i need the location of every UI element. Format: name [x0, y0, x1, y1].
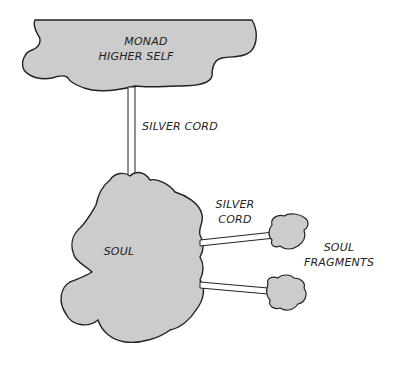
soul-fragment-lower [267, 275, 306, 310]
silver-cord-label-vertical: SILVER CORD [142, 120, 218, 133]
diagram-canvas: MONAD HIGHER SELF SILVER CORD SOUL SILVE… [0, 0, 396, 365]
silver-cord-label-line1: SILVER [216, 198, 255, 211]
fragments-label-line2: FRAGMENTS [304, 256, 374, 269]
silver-cord-vertical [128, 87, 135, 185]
silver-cord-upper [200, 232, 275, 246]
monad-label-line1: MONAD [124, 35, 167, 48]
silver-cord-label-line2: CORD [218, 213, 251, 226]
soul-label: SOUL [104, 245, 135, 258]
fragments-label-line1: SOUL [324, 241, 355, 254]
silver-cord-lower [200, 282, 268, 294]
monad-label-line2: HIGHER SELF [99, 50, 174, 63]
soul-fragment-upper [269, 214, 308, 249]
